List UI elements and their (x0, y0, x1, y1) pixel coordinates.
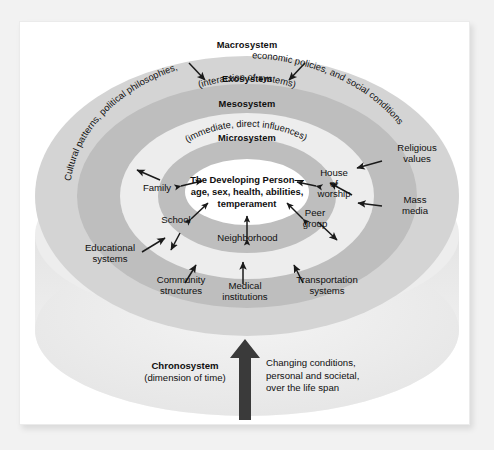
node-neighborhood: Neighborhood (205, 233, 290, 244)
ring-title-exosystem: Exosystem (187, 74, 307, 84)
diagram-svg: Cultural patterns, political philosophie… (0, 0, 494, 450)
node-family: Family (131, 183, 183, 194)
label-transportation-systems: Transportation systems (285, 275, 369, 296)
chronosystem-description: Changing conditions, personal and societ… (266, 357, 416, 395)
node-school: School (151, 215, 201, 226)
label-community-structures: Community structures (144, 275, 218, 296)
label-medical-institutions: Medical institutions (212, 281, 278, 302)
chronosystem-title: Chronosystem (136, 361, 234, 372)
label-religious-values: Religious values (388, 143, 446, 164)
node-peer-group: Peer group (293, 208, 337, 229)
figure-root: Cultural patterns, political philosophie… (0, 0, 494, 450)
ring-title-microsystem: Microsystem (187, 133, 307, 143)
developing-person-line2: age, sex, health, abilities, (163, 186, 331, 197)
label-mass-media: Mass media (392, 195, 438, 216)
ring-title-macrosystem: Macrosystem (177, 40, 317, 50)
ring-title-mesosystem: Mesosystem (187, 99, 307, 109)
developing-person-line1: The Developing Person— (165, 174, 329, 185)
chronosystem-subtitle: (dimension of time) (127, 373, 243, 384)
node-house-of-worship: House of worship (310, 168, 358, 200)
label-educational-systems: Educational systems (76, 243, 144, 264)
diagram-canvas: Cultural patterns, political philosophie… (0, 0, 494, 450)
